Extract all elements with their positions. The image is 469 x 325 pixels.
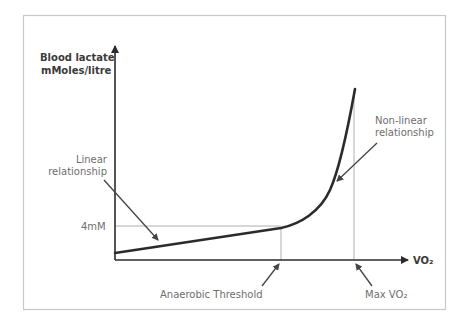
y-axis-label-line1: Blood lactate — [40, 52, 115, 63]
anaerobic-threshold-label: Anaerobic Threshold — [160, 289, 263, 300]
lactate-threshold-diagram: Blood lactate mMoles/litre VO₂ 4mM Linea… — [0, 0, 469, 325]
y-tick-4mm: 4mM — [81, 221, 106, 232]
linear-label-line1: Linear — [76, 154, 108, 165]
nonlinear-label-line2: relationship — [375, 127, 434, 138]
max-vo2-arrow — [356, 264, 372, 286]
y-axis-label-line2: mMoles/litre — [41, 65, 112, 76]
nonlinear-label-line1: Non-linear — [375, 115, 428, 126]
anaerobic-threshold-arrow — [262, 264, 279, 286]
linear-arrow — [104, 180, 158, 240]
linear-label-line2: relationship — [48, 166, 107, 177]
lactate-curve — [115, 89, 355, 253]
max-vo2-label: Max VO₂ — [365, 289, 407, 300]
x-axis-label: VO₂ — [413, 255, 433, 266]
